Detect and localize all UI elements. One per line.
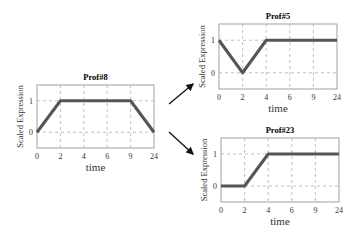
- x-tick-label: 2: [243, 206, 247, 215]
- chart-prof-5: 010246924Prof#5timeScaled Expression: [197, 11, 341, 114]
- x-tick-label: 9: [129, 152, 133, 161]
- y-tick-label: 1: [213, 150, 217, 159]
- x-tick-label: 4: [264, 93, 268, 102]
- y-tick-label: 1: [29, 97, 33, 106]
- plot-frame: [37, 85, 154, 148]
- data-line: [219, 40, 337, 73]
- chart-prof-8: 010246924Prof#8timeScaled Expression: [15, 72, 158, 173]
- chart-title: Prof#23: [266, 125, 295, 135]
- y-axis-label: Scaled Expression: [15, 84, 25, 147]
- y-axis-label: Scaled Expression: [199, 138, 209, 201]
- x-tick-label: 6: [288, 93, 292, 102]
- plot-frame: [221, 138, 339, 202]
- x-axis-label: time: [268, 102, 288, 114]
- x-tick-label: 6: [290, 206, 294, 215]
- x-tick-label: 2: [241, 93, 245, 102]
- arrow-up-right-icon: [169, 84, 193, 104]
- x-axis-label: time: [86, 161, 106, 173]
- diagram-canvas: 010246924Prof#8timeScaled Expression0102…: [0, 0, 359, 232]
- y-tick-label: 0: [213, 182, 217, 191]
- x-tick-label: 4: [266, 206, 270, 215]
- chart-prof-23: 010246924Prof#23timeScaled Expression: [199, 125, 343, 227]
- x-tick-label: 9: [311, 93, 315, 102]
- x-tick-label: 4: [82, 152, 86, 161]
- y-tick-label: 0: [211, 69, 215, 78]
- data-line: [37, 101, 154, 133]
- x-tick-label: 24: [335, 206, 343, 215]
- x-tick-label: 24: [333, 93, 341, 102]
- chart-title: Prof#5: [266, 11, 290, 21]
- x-tick-label: 9: [313, 206, 317, 215]
- x-tick-label: 0: [35, 152, 39, 161]
- y-axis-label: Scaled Expression: [197, 24, 207, 87]
- x-tick-label: 24: [150, 152, 158, 161]
- arrow-down-right-icon: [169, 132, 193, 154]
- x-tick-label: 6: [105, 152, 109, 161]
- x-axis-label: time: [270, 215, 290, 227]
- x-tick-label: 0: [219, 206, 223, 215]
- x-tick-label: 0: [217, 93, 221, 102]
- y-tick-label: 1: [211, 36, 215, 45]
- data-line: [221, 154, 339, 186]
- x-tick-label: 2: [58, 152, 62, 161]
- y-tick-label: 0: [29, 128, 33, 137]
- chart-title: Prof#8: [83, 72, 107, 82]
- plot-frame: [219, 24, 337, 89]
